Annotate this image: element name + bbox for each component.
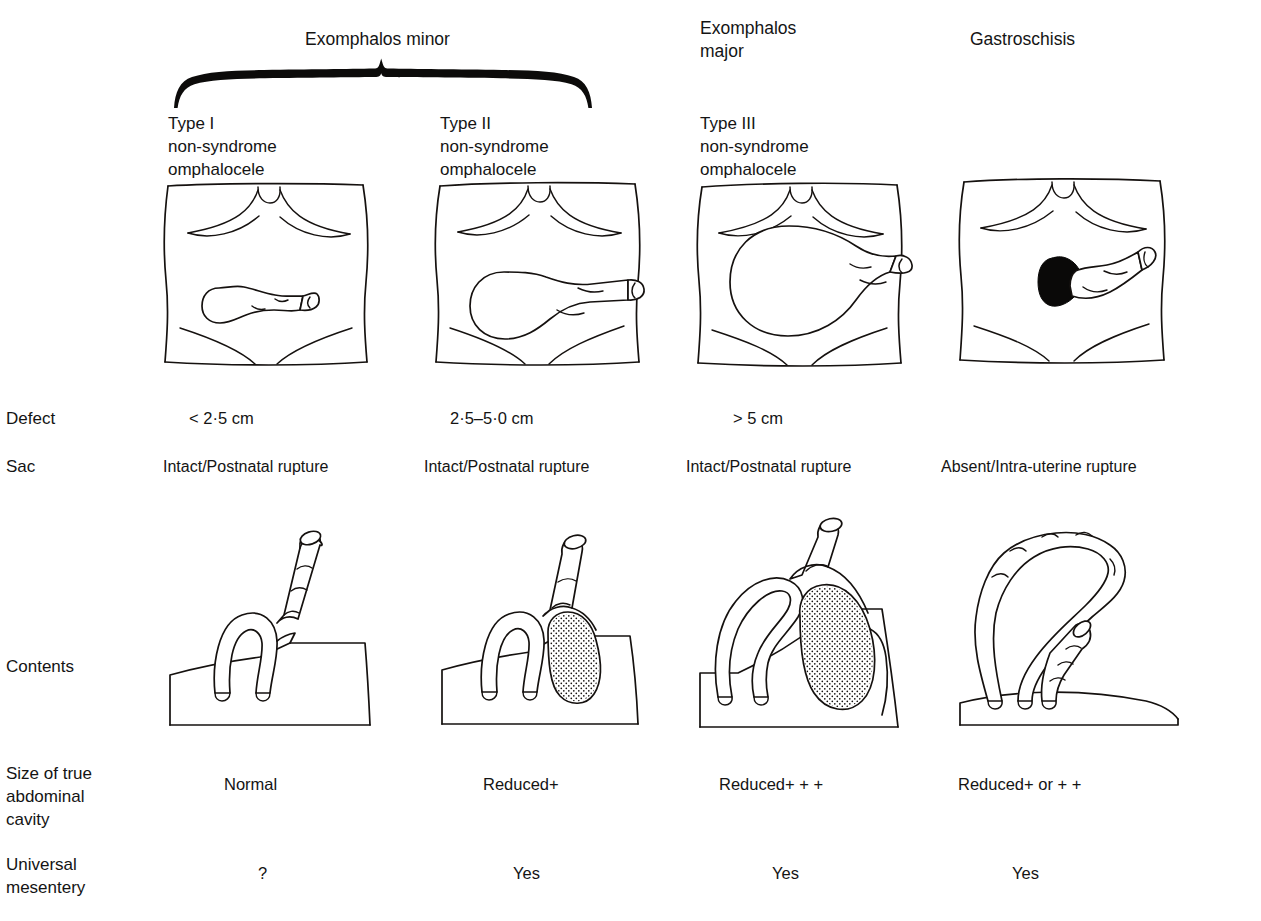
- brace-exomphalos-minor: [168, 58, 598, 110]
- row-label-sac: Sac: [6, 455, 35, 478]
- cell-cavity-type-1: Normal: [224, 773, 277, 796]
- cell-defect-type-1: < 2·5 cm: [189, 407, 254, 430]
- illustration-torso-type-2: [432, 176, 652, 371]
- cell-sac-type-3: Intact/Postnatal rupture: [686, 455, 851, 478]
- cell-sac-type-1: Intact/Postnatal rupture: [163, 455, 328, 478]
- row-label-universal-mesentery: Universal mesentery: [6, 853, 85, 899]
- illustration-contents-gastroschisis: [946, 505, 1191, 733]
- row-label-defect: Defect: [6, 407, 55, 430]
- illustration-contents-type-2: [430, 512, 665, 730]
- column-header-type-3: Type III non-syndrome omphalocele: [700, 112, 809, 181]
- cell-sac-type-2: Intact/Postnatal rupture: [424, 455, 589, 478]
- column-header-type-2: Type II non-syndrome omphalocele: [440, 112, 549, 181]
- cell-defect-type-2: 2·5–5·0 cm: [450, 407, 533, 430]
- illustration-torso-type-1: [160, 176, 380, 371]
- illustration-contents-type-3: [686, 505, 931, 733]
- group-header-exomphalos-major: Exomphalos major: [700, 17, 796, 63]
- row-label-contents: Contents: [6, 655, 74, 678]
- cell-cavity-type-3: Reduced+ + +: [719, 773, 823, 796]
- cell-sac-gastroschisis: Absent/Intra-uterine rupture: [941, 455, 1137, 478]
- cell-mesentery-type-2: Yes: [513, 862, 540, 885]
- cell-mesentery-type-1: ?: [258, 862, 267, 885]
- cell-mesentery-gastroschisis: Yes: [1012, 862, 1039, 885]
- column-header-type-1: Type I non-syndrome omphalocele: [168, 112, 277, 181]
- group-header-exomphalos-minor: Exomphalos minor: [305, 28, 450, 51]
- illustration-torso-gastroschisis: [952, 170, 1177, 370]
- cell-cavity-gastroschisis: Reduced+ or + +: [958, 773, 1081, 796]
- cell-defect-type-3: > 5 cm: [733, 407, 783, 430]
- group-header-gastroschisis: Gastroschisis: [970, 28, 1075, 51]
- cell-mesentery-type-3: Yes: [772, 862, 799, 885]
- illustration-torso-type-3: [692, 176, 917, 371]
- row-label-abdominal-cavity-size: Size of true abdominal cavity: [6, 762, 92, 831]
- illustration-contents-type-1: [160, 515, 395, 730]
- cell-cavity-type-2: Reduced+: [483, 773, 559, 796]
